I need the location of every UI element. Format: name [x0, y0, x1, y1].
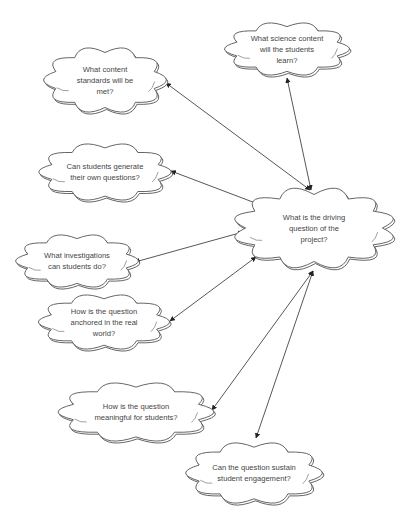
- node-label-science-content: What science content will the students l…: [234, 33, 341, 66]
- node-label-content-standards: What content standards will be met?: [53, 64, 158, 97]
- arrow-engagement: [256, 271, 313, 438]
- arrow-investigations: [135, 232, 243, 262]
- arrow-own-questions: [171, 171, 258, 204]
- node-label-engagement: Can the question sustain student engagem…: [195, 462, 313, 484]
- arrow-meaningful: [212, 271, 313, 410]
- node-label-own-questions: Can students generate their own question…: [48, 161, 162, 183]
- arrow-anchored: [170, 257, 256, 321]
- node-label-meaningful: How is the question meaningful for stude…: [68, 401, 204, 423]
- node-label-anchored: How is the question anchored in the real…: [48, 306, 161, 339]
- node-label-investigations: What investigations can students do?: [25, 250, 130, 272]
- center-node-label: What is the driving question of the proj…: [243, 212, 385, 245]
- arrow-content-standards: [166, 83, 310, 190]
- arrow-science-content: [287, 78, 311, 190]
